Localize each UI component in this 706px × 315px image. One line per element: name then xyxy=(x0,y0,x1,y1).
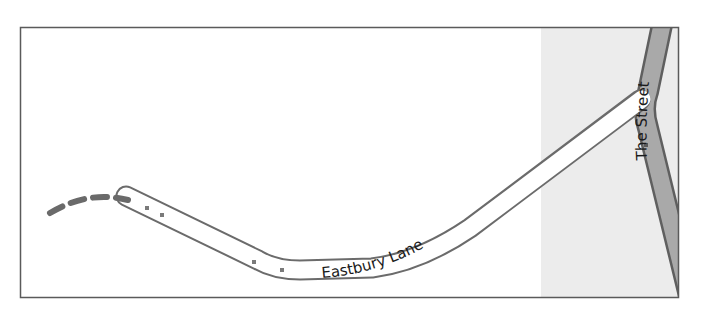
the-street-label-text: The Street xyxy=(632,81,653,162)
node-marker xyxy=(145,206,149,210)
the-street-label: The Street xyxy=(632,81,653,162)
node-marker xyxy=(160,213,164,217)
map-canvas[interactable]: Eastbury Lane The Street xyxy=(0,0,706,315)
node-marker xyxy=(252,260,256,264)
node-marker xyxy=(280,268,284,272)
footpath-dashed[interactable] xyxy=(50,197,128,213)
